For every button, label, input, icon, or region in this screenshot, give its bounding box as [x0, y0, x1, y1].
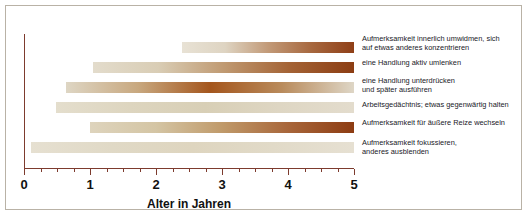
- x-tick-minor: [41, 169, 42, 172]
- bar-row: [93, 62, 354, 73]
- x-tick-minor: [206, 169, 207, 172]
- bar-row: [90, 122, 354, 133]
- x-tick-minor: [107, 169, 108, 172]
- bar-label: eine Handlung unterdrücken und später au…: [362, 76, 455, 94]
- x-tick-major: [24, 169, 25, 175]
- x-tick-major: [222, 169, 223, 175]
- x-tick-label: 2: [152, 177, 159, 192]
- chart-frame: 012345 Alter in Jahren Aufmerksamkeit in…: [5, 5, 522, 210]
- x-tick-minor: [123, 169, 124, 172]
- x-tick-minor: [272, 169, 273, 172]
- bar-label: Arbeitsgedächtnis; etwas gegenwärtig hal…: [362, 100, 509, 109]
- x-tick-label: 1: [86, 177, 93, 192]
- bar-label: eine Handlung aktiv umlenken: [362, 58, 461, 67]
- plot-area: 012345 Alter in Jahren: [24, 34, 354, 168]
- x-tick-minor: [173, 169, 174, 172]
- x-tick-major: [288, 169, 289, 175]
- y-axis-line: [24, 34, 25, 168]
- x-tick-minor: [239, 169, 240, 172]
- x-tick-minor: [57, 169, 58, 172]
- x-tick-minor: [74, 169, 75, 172]
- x-tick-label: 3: [218, 177, 225, 192]
- x-tick-minor: [140, 169, 141, 172]
- x-tick-label: 4: [284, 177, 291, 192]
- bar-row: [56, 102, 354, 113]
- x-tick-major: [90, 169, 91, 175]
- x-tick-label: 5: [350, 177, 357, 192]
- bar-label-list: Aufmerksamkeit innerlich umwidmen, sich …: [362, 32, 527, 172]
- x-tick-major: [354, 169, 355, 175]
- bar-label: Aufmerksamkeit innerlich umwidmen, sich …: [362, 34, 500, 52]
- chart-container: 012345 Alter in Jahren Aufmerksamkeit in…: [0, 0, 527, 221]
- x-tick-minor: [305, 169, 306, 172]
- x-tick-label: 0: [20, 177, 27, 192]
- bar-row: [66, 82, 354, 93]
- x-tick-minor: [338, 169, 339, 172]
- bar-label: Aufmerksamkeit fokussieren, anderes ausb…: [362, 138, 457, 156]
- x-tick-major: [156, 169, 157, 175]
- x-tick-minor: [321, 169, 322, 172]
- x-tick-minor: [255, 169, 256, 172]
- bar-row: [31, 142, 354, 153]
- x-axis-title: Alter in Jahren: [24, 197, 354, 211]
- bar-label: Aufmerksamkeit für äußere Reize wechseln: [362, 118, 505, 127]
- x-tick-minor: [189, 169, 190, 172]
- bar-row: [182, 42, 354, 53]
